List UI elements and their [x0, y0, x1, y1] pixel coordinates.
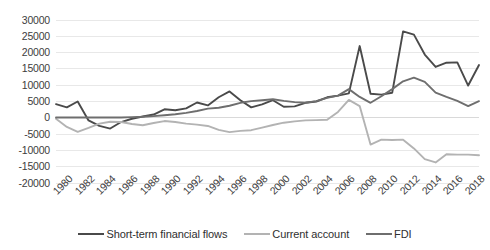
- legend-entry-2[interactable]: Current account: [244, 228, 349, 240]
- legend-entry-1[interactable]: Short-term financial flows: [78, 228, 227, 240]
- y-tick-label: 0: [44, 112, 50, 123]
- data-series-group: [56, 31, 479, 162]
- y-tick-label: 30000: [22, 15, 50, 26]
- y-tick-label: -15000: [19, 161, 51, 172]
- y-tick-label: -5000: [24, 129, 50, 140]
- series-line-1: [56, 31, 479, 128]
- y-tick-label: -20000: [19, 178, 51, 189]
- legend-label: Short-term financial flows: [106, 228, 227, 240]
- series-line-3: [56, 78, 479, 118]
- series-line-2: [56, 100, 479, 163]
- chart-legend: Short-term financial flowsCurrent accoun…: [0, 224, 490, 244]
- legend-label: Current account: [272, 228, 349, 240]
- legend-label: FDI: [394, 228, 411, 240]
- y-tick-label: 15000: [22, 63, 50, 74]
- y-tick-label: 10000: [22, 80, 50, 91]
- legend-line-swatch-icon: [78, 233, 104, 235]
- legend-entry-3[interactable]: FDI: [366, 228, 411, 240]
- line-chart-plot: [0, 0, 490, 250]
- legend-line-swatch-icon: [366, 233, 392, 235]
- legend-line-swatch-icon: [244, 233, 270, 235]
- y-tick-label: -10000: [19, 145, 51, 156]
- y-tick-label: 5000: [27, 96, 50, 107]
- y-tick-label: 20000: [22, 47, 50, 58]
- chart-container: 300002500020000150001000050000-5000-1000…: [0, 0, 490, 250]
- y-tick-label: 25000: [22, 31, 50, 42]
